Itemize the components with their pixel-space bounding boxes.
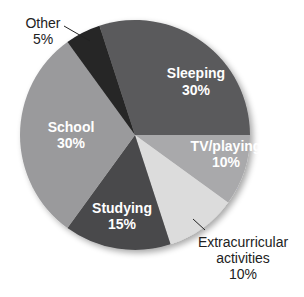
studying-pct: 15%: [108, 216, 137, 232]
tv-playing-label: TV/playing: [191, 138, 262, 154]
sleeping-pct: 30%: [182, 82, 211, 98]
sleeping-label: Sleeping: [167, 65, 225, 81]
other-pct: 5%: [33, 31, 53, 47]
other-label: Other: [25, 15, 60, 31]
extracurricular-label-2: activities: [216, 250, 270, 266]
extracurricular-label: Extracurricular: [198, 234, 289, 250]
studying-label: Studying: [92, 200, 152, 216]
extracurricular-pct: 10%: [229, 266, 257, 282]
school-label: School: [48, 119, 95, 135]
school-pct: 30%: [57, 135, 86, 151]
pie-chart: Sleeping 30% TV/playing 10% Studying 15%…: [0, 0, 304, 297]
tv-playing-pct: 10%: [212, 154, 241, 170]
